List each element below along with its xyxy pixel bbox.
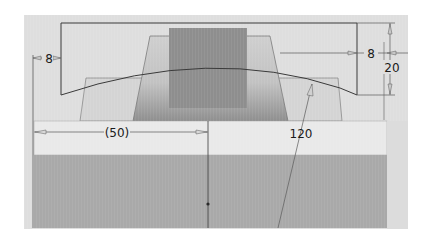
center-point[interactable] [206, 202, 209, 205]
cad-viewport[interactable]: 8 8 20 (50) 120 [0, 0, 431, 242]
dimension-label: (50) [105, 126, 130, 140]
dimension-label: 20 [384, 61, 399, 75]
dimension-label: 8 [45, 52, 53, 66]
canvas-right-margin [387, 121, 408, 229]
dimension-label: 8 [367, 47, 375, 61]
canvas-texture [24, 15, 408, 229]
dimension-label: 120 [290, 127, 313, 141]
